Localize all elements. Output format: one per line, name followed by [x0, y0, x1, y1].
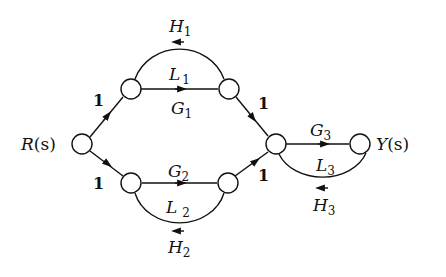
label-g1: G1 [171, 98, 192, 121]
node-n5 [266, 134, 286, 154]
label-h2: H2 [167, 237, 190, 260]
label-h1: H1 [168, 16, 191, 39]
gain-label-1b: 1 [93, 174, 104, 193]
gain-label-1d: 1 [258, 166, 269, 185]
input-label: R(s) [20, 134, 56, 154]
label-h3: H3 [312, 195, 335, 218]
node-input [72, 134, 92, 154]
label-l1: L1 [168, 64, 190, 87]
signal-flow-graph: R(s) Y(s) 1 1 1 1 H1 L1 G1 G2 L2 H2 G3 L… [0, 0, 446, 277]
label-g3: G3 [310, 120, 331, 143]
label-l3: L3 [315, 155, 335, 178]
edge-h2 [135, 193, 224, 231]
gain-label-1a: 1 [93, 91, 104, 110]
gain-label-1c: 1 [258, 94, 269, 113]
label-g2: G2 [168, 161, 189, 184]
edge-r-to-n3 [90, 151, 123, 176]
node-n2 [219, 79, 239, 99]
node-n3 [121, 173, 141, 193]
label-l2: L2 [165, 197, 190, 220]
node-n1 [121, 79, 141, 99]
node-output [350, 134, 370, 154]
output-label: Y(s) [376, 134, 409, 154]
node-n4 [218, 173, 238, 193]
